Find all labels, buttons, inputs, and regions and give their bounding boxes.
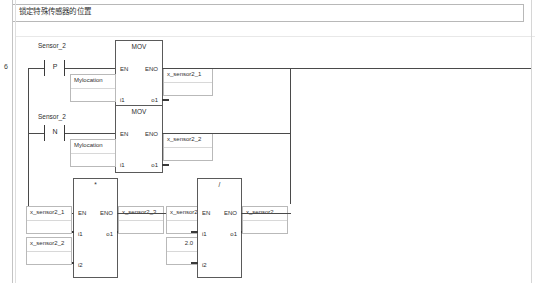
multiply-block-title: * bbox=[74, 181, 117, 188]
multiply-block[interactable]: * EN ENO i1 o1 i2 bbox=[73, 178, 118, 278]
varbox-mov2-output-text: x_sensor2_2 bbox=[167, 136, 201, 142]
varbox-multiply-input1-text: x_sensor2_1 bbox=[30, 209, 64, 215]
varbox-mov2-output-divider bbox=[164, 147, 212, 148]
multiply-block-pin-en: EN bbox=[78, 210, 86, 216]
varbox-divide-output-divider bbox=[243, 220, 287, 221]
varbox-multiply-input2[interactable]: x_sensor2_2 bbox=[26, 237, 72, 265]
divide-block[interactable]: / EN ENO i1 o1 i2 bbox=[197, 178, 242, 278]
mov-block-1-pin-o1: o1 bbox=[151, 97, 158, 103]
varbox-mov2-output[interactable]: x_sensor2_2 bbox=[163, 133, 213, 161]
mov-block-1-pin-en: EN bbox=[120, 66, 128, 72]
varbox-mov1-input[interactable]: Mylocation bbox=[70, 74, 116, 102]
divide-block-pin-en: EN bbox=[202, 210, 210, 216]
varbox-multiply-output-divider bbox=[119, 220, 163, 221]
varbox-multiply-input2-divider bbox=[27, 251, 71, 252]
right-edge-line bbox=[531, 0, 532, 283]
mov-block-2-pin-o1: o1 bbox=[151, 162, 158, 168]
mov-block-2-o1-stub bbox=[162, 164, 169, 166]
ladder-diagram-canvas: 锁定特殊传感器的位置 6 Sensor_2 P MOV EN ENO i1 o1… bbox=[0, 0, 535, 283]
wire-rail-to-contact-2 bbox=[28, 133, 44, 134]
wire-divide-eno-to-junction bbox=[241, 213, 291, 214]
varbox-mov1-output-text: x_sensor2_1 bbox=[167, 71, 201, 77]
varbox-multiply-input1-divider bbox=[27, 220, 71, 221]
left-gutter-line bbox=[12, 0, 13, 283]
left-gutter-line-secondary bbox=[15, 0, 16, 283]
wire-mov2-eno-right bbox=[162, 133, 290, 134]
rung-comment-text: 锁定特殊传感器的位置 bbox=[19, 7, 91, 17]
varbox-mov1-input-text: Mylocation bbox=[74, 77, 103, 83]
varbox-mov1-output-divider bbox=[164, 82, 212, 83]
mov-block-1-pin-eno: ENO bbox=[145, 66, 158, 72]
mov-block-2[interactable]: MOV EN ENO i1 o1 bbox=[115, 105, 163, 173]
divide-block-pin-o1: o1 bbox=[230, 231, 237, 237]
mov-block-2-pin-i1: i1 bbox=[120, 162, 125, 168]
varbox-mov2-input[interactable]: Mylocation bbox=[70, 139, 116, 167]
contact-edge-mark: P bbox=[44, 63, 66, 70]
divide-block-pin-i2: i2 bbox=[202, 262, 207, 268]
contact-label-sensor2-rising: Sensor_2 bbox=[38, 42, 66, 49]
varbox-mov2-input-divider bbox=[71, 153, 115, 154]
mov-block-1[interactable]: MOV EN ENO i1 o1 bbox=[115, 40, 163, 108]
mov-block-2-pin-en: EN bbox=[120, 131, 128, 137]
divide-block-pin-eno: ENO bbox=[224, 210, 237, 216]
varbox-multiply-input1[interactable]: x_sensor2_1 bbox=[26, 206, 72, 234]
wire-rail-to-contact-1 bbox=[28, 68, 44, 69]
mov-block-2-title: MOV bbox=[116, 108, 162, 115]
contact-sensor2-falling[interactable]: N bbox=[44, 125, 66, 141]
power-rail-vertical bbox=[28, 68, 29, 213]
wire-contact-to-mov2-en bbox=[65, 133, 115, 134]
rung-number: 6 bbox=[4, 63, 8, 70]
varbox-multiply-output[interactable]: x_sensor2_3 bbox=[118, 206, 164, 234]
varbox-multiply-input2-text: x_sensor2_2 bbox=[30, 240, 64, 246]
divide-block-pin-i1: i1 bbox=[202, 231, 207, 237]
divide-block-i1-stub bbox=[191, 231, 198, 233]
multiply-block-pin-o1: o1 bbox=[106, 231, 113, 237]
divide-block-i2-stub bbox=[191, 262, 198, 264]
mov-block-1-o1-stub bbox=[162, 99, 169, 101]
mov-block-1-title: MOV bbox=[116, 43, 162, 50]
mov-block-2-pin-eno: ENO bbox=[145, 131, 158, 137]
mov-block-1-pin-i1: i1 bbox=[120, 97, 125, 103]
varbox-mov1-output[interactable]: x_sensor2_1 bbox=[163, 68, 213, 96]
multiply-block-pin-eno: ENO bbox=[100, 210, 113, 216]
header-separator bbox=[16, 36, 535, 37]
wire-mov1-eno-to-right-rail bbox=[162, 68, 531, 69]
varbox-mov1-input-divider bbox=[71, 88, 115, 89]
wire-vertical-junction-right bbox=[290, 68, 291, 204]
contact-sensor2-rising[interactable]: P bbox=[44, 60, 66, 76]
multiply-block-pin-i1: i1 bbox=[78, 231, 83, 237]
contact-edge-mark: N bbox=[44, 128, 66, 135]
varbox-divide-output[interactable]: x_sensor2 bbox=[242, 206, 288, 234]
wire-contact-to-mov1-en bbox=[65, 68, 115, 69]
contact-label-sensor2-falling: Sensor_2 bbox=[38, 113, 66, 120]
multiply-block-pin-i2: i2 bbox=[78, 262, 83, 268]
varbox-mov2-input-text: Mylocation bbox=[74, 142, 103, 148]
divide-block-title: / bbox=[198, 181, 241, 188]
